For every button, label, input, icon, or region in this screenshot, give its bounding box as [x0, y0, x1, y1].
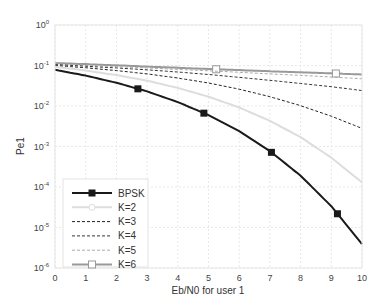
- x-tick-label: 0: [52, 273, 57, 283]
- y-tick-label: 10-4: [34, 181, 50, 192]
- y-tick-label: 10-5: [34, 222, 50, 233]
- open-square-marker-icon: [213, 66, 220, 73]
- square-marker-icon: [134, 85, 141, 92]
- x-tick-label: 5: [206, 273, 211, 283]
- chart: 10010-110-210-310-410-510-6 012345678910…: [0, 0, 387, 306]
- x-tick-label: 8: [298, 273, 303, 283]
- open-square-marker-icon: [332, 70, 339, 77]
- y-axis-label: Pe1: [15, 137, 26, 155]
- y-axis-ticks: 10010-110-210-310-410-510-6: [34, 19, 50, 273]
- x-tick-label: 7: [267, 273, 272, 283]
- x-tick-label: 2: [114, 273, 119, 283]
- x-tick-label: 6: [237, 273, 242, 283]
- legend-label: K=5: [118, 245, 137, 256]
- y-tick-label: 100: [36, 19, 50, 30]
- legend-label: K=2: [118, 202, 137, 213]
- open-circle-marker-icon: [89, 204, 95, 210]
- x-tick-label: 1: [83, 273, 88, 283]
- x-axis-label: Eb/N0 for user 1: [172, 285, 245, 296]
- x-axis-ticks: 012345678910: [52, 273, 367, 283]
- x-tick-label: 9: [329, 273, 334, 283]
- legend-label: K=6: [118, 259, 137, 270]
- square-marker-icon: [334, 210, 341, 217]
- legend-label: BPSK: [118, 188, 145, 199]
- y-tick-label: 10-6: [34, 262, 50, 273]
- x-tick-label: 10: [357, 273, 367, 283]
- square-marker-icon: [268, 149, 275, 156]
- y-tick-label: 10-1: [34, 60, 50, 71]
- square-marker-icon: [89, 190, 96, 197]
- x-tick-label: 3: [145, 273, 150, 283]
- legend: BPSKK=2K=3K=4K=5K=6: [63, 179, 148, 270]
- legend-label: K=4: [118, 230, 137, 241]
- square-marker-icon: [200, 110, 207, 117]
- x-tick-label: 4: [175, 273, 180, 283]
- open-square-marker-icon: [89, 261, 96, 268]
- y-tick-label: 10-3: [34, 141, 50, 152]
- y-tick-label: 10-2: [34, 100, 50, 111]
- legend-label: K=3: [118, 216, 137, 227]
